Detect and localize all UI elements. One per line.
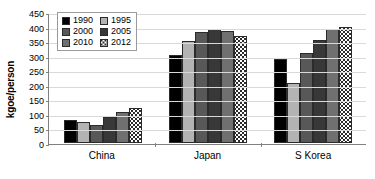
x-label-japan: Japan <box>155 150 261 161</box>
y-tick-label-150: 150 <box>29 97 44 106</box>
bar-s-korea-2005[interactable] <box>313 40 326 143</box>
y-tickmark-450 <box>46 14 49 15</box>
y-tickmark-50 <box>46 130 49 131</box>
y-tick-label-100: 100 <box>29 111 44 120</box>
legend-item-2000[interactable]: 2000 <box>62 27 93 36</box>
bar-chart: kgoe/person 450400350300250200150100500 … <box>0 0 375 179</box>
bar-china-2000[interactable] <box>90 125 103 143</box>
bar-japan-2012[interactable] <box>234 36 247 143</box>
legend-swatch-2010-icon <box>62 39 70 47</box>
legend-item-2010[interactable]: 2010 <box>62 38 93 47</box>
x-label-s-korea: S Korea <box>260 150 366 161</box>
y-tick-label-300: 300 <box>29 53 44 62</box>
legend-swatch-1995-icon <box>100 17 108 25</box>
y-axis-title: kgoe/person <box>0 0 20 179</box>
bar-s-korea-2012[interactable] <box>339 27 352 143</box>
bar-group-japan <box>155 14 260 143</box>
y-tickmark-300 <box>46 58 49 59</box>
y-tickmark-150 <box>46 101 49 102</box>
gridline-150 <box>49 101 366 102</box>
y-tick-label-50: 50 <box>34 126 44 135</box>
legend-label-2010: 2010 <box>73 38 93 47</box>
legend-item-1995[interactable]: 1995 <box>100 16 131 25</box>
bar-china-2012[interactable] <box>129 108 142 143</box>
gridline-300 <box>49 58 366 59</box>
y-tick-label-200: 200 <box>29 82 44 91</box>
legend-label-1990: 1990 <box>73 16 93 25</box>
y-tickmark-250 <box>46 72 49 73</box>
y-axis-tick-labels: 450400350300250200150100500 <box>18 14 44 145</box>
y-tickmark-0 <box>46 145 49 146</box>
legend-swatch-1990-icon <box>62 17 70 25</box>
y-tick-label-0: 0 <box>39 141 44 150</box>
x-axis-category-labels: ChinaJapanS Korea <box>49 150 366 161</box>
legend-label-2000: 2000 <box>73 27 93 36</box>
y-tickmark-400 <box>46 29 49 30</box>
bar-japan-1995[interactable] <box>182 41 195 143</box>
legend-item-1990[interactable]: 1990 <box>62 16 93 25</box>
legend-label-1995: 1995 <box>111 16 131 25</box>
y-tick-label-400: 400 <box>29 24 44 33</box>
legend-item-2012[interactable]: 2012 <box>100 38 131 47</box>
y-tickmark-200 <box>46 87 49 88</box>
bar-group-s-korea <box>261 14 366 143</box>
y-tick-label-450: 450 <box>29 10 44 19</box>
x-axis-group-separator <box>261 143 262 147</box>
gridline-100 <box>49 116 366 117</box>
x-axis-group-separator <box>155 143 156 147</box>
y-tick-label-350: 350 <box>29 39 44 48</box>
legend-item-2005[interactable]: 2005 <box>100 27 131 36</box>
y-tickmark-350 <box>46 43 49 44</box>
y-tickmark-100 <box>46 116 49 117</box>
bar-s-korea-2010[interactable] <box>326 29 339 143</box>
gridline-200 <box>49 87 366 88</box>
x-label-china: China <box>49 150 155 161</box>
legend-swatch-2000-icon <box>62 28 70 36</box>
gridline-250 <box>49 72 366 73</box>
bar-china-1995[interactable] <box>77 122 90 143</box>
legend-label-2005: 2005 <box>111 27 131 36</box>
bar-china-1990[interactable] <box>64 120 77 143</box>
bar-s-korea-1995[interactable] <box>287 83 300 143</box>
chart-legend: 199019952000200520102012 <box>57 12 137 51</box>
gridline-50 <box>49 130 366 131</box>
legend-swatch-2012-icon <box>100 39 108 47</box>
legend-swatch-2005-icon <box>100 28 108 36</box>
legend-label-2012: 2012 <box>111 38 131 47</box>
y-tick-label-250: 250 <box>29 68 44 77</box>
